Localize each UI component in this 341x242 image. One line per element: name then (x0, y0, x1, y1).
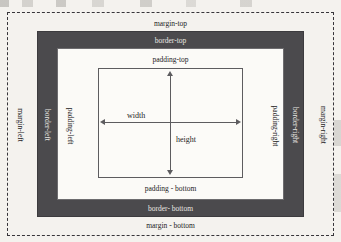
scan-artifact-top-edge (0, 0, 341, 7)
padding-left-label: padding-left (66, 108, 74, 145)
border-left-label: border-left (43, 109, 51, 141)
padding-right-label: padding-right (271, 106, 279, 147)
width-label: width (127, 112, 145, 120)
scan-artifact-right-edge (334, 120, 341, 238)
margin-right-label: margin-right (319, 106, 327, 144)
margin-top-label: margin-top (8, 20, 333, 28)
border-right-label: border-right (291, 107, 299, 143)
padding-top-label: padding-top (58, 56, 283, 64)
padding-bottom-label: padding - bottom (58, 185, 283, 193)
border-bottom-label: border- bottom (38, 205, 303, 213)
height-dimension-arrow (170, 76, 171, 170)
border-top-label: border-top (38, 37, 303, 45)
height-label: height (176, 136, 196, 144)
margin-bottom-label: margin - bottom (8, 222, 333, 230)
margin-left-label: margin-left (16, 108, 24, 142)
